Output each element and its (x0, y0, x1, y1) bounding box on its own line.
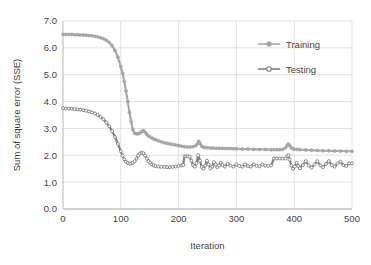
data-point (116, 143, 119, 146)
y-axis-tick-labels: 0.01.02.03.04.05.06.07.0 (44, 15, 57, 214)
data-point (90, 34, 93, 37)
data-point (322, 166, 325, 169)
sse-line-chart: 0.01.02.03.04.05.06.07.0 010020030040050… (0, 0, 371, 265)
data-point (105, 121, 108, 124)
x-axis-tick-labels: 0100200300400500 (60, 213, 360, 224)
y-tick-label: 5.0 (44, 69, 57, 80)
data-point (287, 154, 290, 157)
y-tick-label: 3.0 (44, 123, 57, 134)
data-point (166, 142, 169, 145)
data-point (193, 165, 196, 168)
y-tick-label: 1.0 (44, 177, 57, 188)
data-point (198, 159, 201, 162)
x-tick-label: 400 (286, 213, 302, 224)
data-point (85, 34, 88, 37)
data-point (293, 148, 296, 151)
data-point (144, 154, 147, 157)
data-point (298, 167, 301, 170)
data-point (174, 144, 177, 147)
data-point (207, 163, 210, 166)
data-point (70, 33, 73, 36)
data-point (339, 160, 342, 163)
data-point (310, 166, 313, 169)
data-point (125, 89, 128, 92)
data-point (177, 144, 180, 147)
data-point (116, 56, 119, 59)
data-point (223, 165, 226, 168)
legend-marker-icon (267, 67, 272, 72)
data-point (119, 65, 122, 68)
y-tick-label: 6.0 (44, 42, 57, 53)
data-point (121, 72, 124, 75)
data-point (246, 148, 249, 151)
data-point (190, 159, 193, 162)
data-point (195, 162, 198, 165)
chart-container: 0.01.02.03.04.05.06.07.0 010020030040050… (0, 0, 371, 265)
data-point (281, 148, 284, 151)
data-point (310, 149, 313, 152)
data-point (241, 148, 244, 151)
data-point (258, 165, 261, 168)
data-point (322, 149, 325, 152)
data-point (327, 149, 330, 152)
data-point (171, 143, 174, 146)
data-point (205, 159, 208, 162)
data-point (206, 146, 209, 149)
y-axis-title: Sum of square error (SSE) (11, 59, 22, 171)
legend-item-testing[interactable]: Testing (258, 64, 316, 75)
data-point (180, 145, 183, 148)
legend-label: Training (286, 39, 320, 50)
data-point (114, 136, 117, 139)
data-point (241, 165, 244, 168)
data-point (204, 164, 207, 167)
data-point (119, 150, 122, 153)
data-point (189, 145, 192, 148)
y-tick-label: 4.0 (44, 96, 57, 107)
data-point (96, 114, 99, 117)
y-tick-label: 2.0 (44, 150, 57, 161)
data-point (333, 149, 336, 152)
data-point (324, 162, 327, 165)
data-point (202, 167, 205, 170)
data-point (333, 165, 336, 168)
data-point (252, 148, 255, 151)
data-point (270, 164, 273, 167)
data-point (82, 33, 85, 36)
data-point (345, 150, 348, 153)
data-point (293, 165, 296, 168)
data-point (168, 143, 171, 146)
data-point (258, 148, 261, 151)
data-point (102, 37, 105, 40)
data-point (339, 149, 342, 152)
data-point (126, 100, 129, 103)
data-point (111, 44, 114, 47)
x-axis-title: Iteration (190, 240, 224, 251)
data-point (232, 165, 235, 168)
data-point (249, 165, 252, 168)
x-tick-label: 0 (60, 213, 65, 224)
data-point (76, 33, 79, 36)
data-point (307, 164, 310, 167)
data-point (182, 163, 185, 166)
data-point (211, 165, 214, 168)
data-point (121, 154, 124, 157)
data-point (197, 154, 200, 157)
data-point (264, 148, 267, 151)
series-testing (62, 107, 354, 170)
data-point (183, 145, 186, 148)
data-point (96, 35, 99, 38)
data-point (220, 147, 223, 150)
data-point (88, 34, 91, 37)
data-point (278, 148, 281, 151)
data-point (316, 160, 319, 163)
data-point (128, 111, 131, 114)
data-point (235, 147, 238, 150)
y-tick-label: 7.0 (44, 15, 57, 26)
data-point (327, 160, 330, 163)
data-point (304, 160, 307, 163)
legend-label: Testing (286, 64, 316, 75)
data-point (131, 128, 134, 131)
data-point (99, 115, 102, 118)
x-tick-label: 200 (171, 213, 187, 224)
data-point (288, 158, 291, 161)
